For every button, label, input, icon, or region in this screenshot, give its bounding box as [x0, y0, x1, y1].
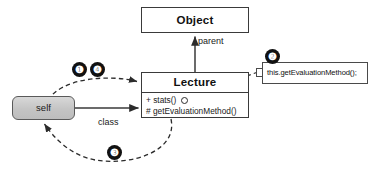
edge-label-parent: parent: [198, 36, 224, 46]
code-callout-text: this.getEvaluationMethod();: [263, 63, 367, 83]
member-visibility-protected: #: [146, 106, 151, 116]
edge-label-class: class: [98, 117, 119, 127]
member-marker-circle-icon: [181, 97, 188, 104]
class-box-object[interactable]: Object: [141, 7, 249, 33]
member-signature-get-evaluation-method: getEvaluationMethod(): [153, 106, 236, 116]
node-self-label: self: [13, 97, 74, 119]
member-visibility-public: +: [146, 95, 151, 105]
step-badge-3: ❸: [107, 145, 122, 160]
class-members-lecture: + stats() # getEvaluationMethod(): [142, 93, 248, 116]
class-member-stats[interactable]: + stats(): [146, 95, 248, 106]
step-badge-4: ❹: [90, 62, 105, 77]
class-box-lecture[interactable]: Lecture + stats() # getEvaluationMethod(…: [141, 72, 249, 118]
step-badge-1: ❶: [72, 62, 87, 77]
class-name-object: Object: [142, 8, 248, 32]
step-badge-2: ❷: [265, 49, 280, 64]
code-callout-box[interactable]: this.getEvaluationMethod();: [262, 62, 368, 84]
member-signature-stats: stats(): [153, 95, 176, 105]
class-member-get-evaluation-method[interactable]: # getEvaluationMethod(): [146, 106, 248, 117]
diagram-canvas: Object Lecture + stats() # getEvaluation…: [0, 0, 376, 173]
node-self[interactable]: self: [12, 96, 75, 120]
class-name-lecture: Lecture: [142, 73, 248, 92]
